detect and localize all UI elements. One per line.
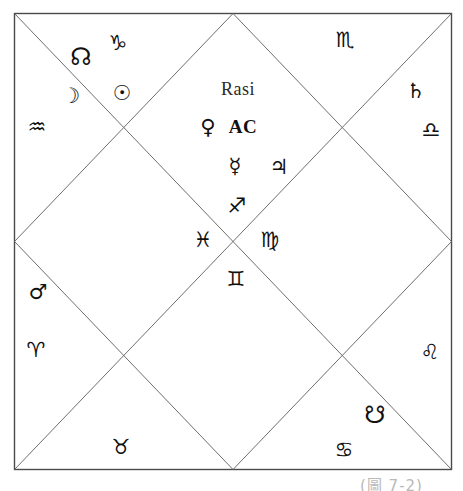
rasi-title: Rasi bbox=[221, 80, 255, 98]
chart-grid bbox=[0, 0, 463, 491]
jupiter-icon: ♃ bbox=[270, 157, 289, 178]
sun-icon: ☉ bbox=[113, 83, 132, 104]
rasi-chart: ♑☊☽☉♒♏♄♎Rasi♀AC☿♃♐♓♍♊♂♈♌☋♋♉ (圖 7-2) bbox=[0, 0, 463, 491]
figure-caption: (圖 7-2) bbox=[360, 474, 423, 491]
capricorn-icon: ♑ bbox=[109, 33, 128, 54]
pisces-icon: ♓ bbox=[194, 230, 213, 251]
saturn-icon: ♄ bbox=[407, 81, 426, 102]
moon-icon: ☽ bbox=[62, 86, 81, 107]
venus-icon: ♀ bbox=[200, 117, 215, 138]
scorpio-icon: ♏ bbox=[336, 30, 355, 51]
leo-icon: ♌ bbox=[421, 342, 440, 363]
aries-icon: ♈ bbox=[27, 340, 46, 361]
gemini-icon: ♊ bbox=[227, 269, 246, 290]
mars-icon: ♂ bbox=[29, 282, 48, 303]
rahu-north-node-icon: ☊ bbox=[70, 45, 91, 69]
aquarius-icon: ♒ bbox=[28, 117, 47, 138]
mercury-icon: ☿ bbox=[229, 156, 242, 177]
cancer-icon: ♋ bbox=[335, 440, 354, 461]
taurus-icon: ♉ bbox=[112, 437, 131, 458]
ascendant: AC bbox=[229, 117, 257, 136]
libra-icon: ♎ bbox=[422, 120, 441, 141]
sagittarius-icon: ♐ bbox=[228, 196, 247, 217]
virgo-icon: ♍ bbox=[261, 230, 280, 251]
ketu-south-node-icon: ☋ bbox=[364, 403, 385, 427]
